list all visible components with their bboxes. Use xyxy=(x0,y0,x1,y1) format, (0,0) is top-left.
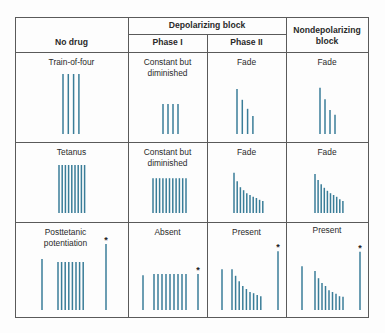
twitch-trace: * xyxy=(15,222,128,317)
cell-tof-phase-1: Constant but diminished xyxy=(128,52,207,142)
cell-tetanus-no-drug: Tetanus xyxy=(15,142,128,222)
table-bottom-border xyxy=(15,317,369,318)
twitch-trace: * xyxy=(128,222,207,317)
star-marker: * xyxy=(276,242,280,252)
cell-ptp-phase-1: Absent * xyxy=(128,222,207,317)
cell-ptp-nondepolarizing: Present * xyxy=(286,222,368,317)
star-marker: * xyxy=(358,243,362,253)
twitch-trace: * xyxy=(286,222,368,317)
cell-tetanus-phase-1: Constant but diminished xyxy=(128,142,207,222)
header-phase-1: Phase I xyxy=(128,37,207,48)
cell-tetanus-phase-2: Fade xyxy=(207,142,286,222)
cell-ptp-no-drug: Posttetanic potentiation * xyxy=(15,222,128,317)
twitch-trace xyxy=(286,142,368,222)
twitch-trace xyxy=(207,142,286,222)
header-nondepolarizing-block: Nondepolarizing block xyxy=(286,25,368,46)
table-right-border xyxy=(368,17,369,318)
twitch-trace xyxy=(128,142,207,222)
twitch-trace: * xyxy=(207,222,286,317)
cell-tof-phase-2: Fade xyxy=(207,52,286,142)
header-depolarizing-block: Depolarizing block xyxy=(128,20,286,31)
header-no-drug: No drug xyxy=(15,37,128,48)
cell-tetanus-nondepolarizing: Fade xyxy=(286,142,368,222)
twitch-trace xyxy=(207,52,286,142)
neuromuscular-block-figure: No drug Depolarizing block Phase I Phase… xyxy=(0,0,385,333)
cell-tof-no-drug: Train-of-four xyxy=(15,52,128,142)
table-top-border xyxy=(15,17,369,18)
star-marker: * xyxy=(104,235,108,245)
twitch-trace xyxy=(286,52,368,142)
cell-tof-nondepolarizing: Fade xyxy=(286,52,368,142)
header-phase-2: Phase II xyxy=(207,37,286,48)
twitch-trace xyxy=(128,52,207,142)
twitch-trace xyxy=(15,142,128,222)
twitch-trace xyxy=(15,52,128,142)
star-marker: * xyxy=(196,265,200,275)
cell-ptp-phase-2: Present * xyxy=(207,222,286,317)
